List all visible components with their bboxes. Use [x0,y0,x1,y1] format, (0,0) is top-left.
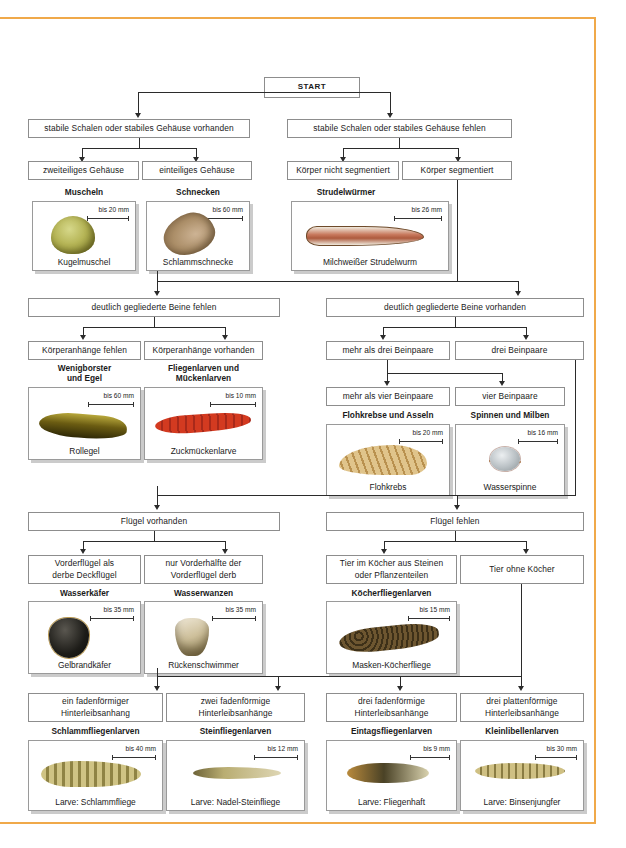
scale-rule-icon [518,439,558,444]
species-card-rollegel[interactable]: bis 60 mm Rollegel [28,387,141,460]
organism-illustration-flatworm [306,226,424,246]
arrow-to-wings-present [154,505,160,510]
caption-koecherfliegenlarven: Köcherfliegenlarven [326,588,457,598]
scale-label: bis 60 mm [213,206,243,213]
connector-l1right-bar [343,148,458,149]
connector-l4-stem [387,360,388,374]
node-animal-without-case[interactable]: Tier ohne Köcher [460,555,584,584]
node-appendages-present[interactable]: Körperanhänge vorhanden [144,341,263,360]
connector-l3right-bar [383,327,526,328]
node-wings-present[interactable]: Flügel vorhanden [28,512,280,531]
arrow-to-two-filaments [275,686,281,691]
scale-label: bis 60 mm [104,392,134,399]
caption-spinnen-milben: Spinnen und Milben [455,410,565,420]
caption-schlammfliegenlarven: Schlammfliegenlarven [28,726,163,736]
node-forewings-elytra[interactable]: Vorderflügel als derbe Deckflügel [28,555,141,584]
connector-level5-bar [157,495,576,496]
scale-rule-icon [112,755,156,760]
species-name: Larve: Schlammfliege [29,797,162,807]
connector-without-case-down [521,584,522,676]
node-two-part-case[interactable]: zweiteiliges Gehäuse [28,161,139,180]
decorative-frame-bottom [0,822,596,824]
caption-wenigborster-egel: Wenigborster und Egel [28,363,141,384]
connector-segmented-down [457,180,458,281]
arrow-to-elytra [80,549,86,554]
identification-key-flowchart: START stabile Schalen oder stabiles Gehä… [0,0,626,848]
node-forewings-half-hardened[interactable]: nur Vorderhälfte der Vorderflügel derb [144,555,263,584]
species-card-gelbrandkaefer[interactable]: bis 35 mm Gelbrandkäfer [28,601,141,674]
node-segmented-legs-absent[interactable]: deutlich gegliederte Beine fehlen [28,298,280,317]
node-shell-present[interactable]: stabile Schalen oder stabiles Gehäuse vo… [28,119,250,138]
scale-rule-icon [88,402,134,407]
arrow-to-case-absent [523,549,529,554]
species-card-schlammfliege[interactable]: bis 40 mm Larve: Schlammfliege [28,740,163,811]
species-card-wasserspinne[interactable]: bis 16 mm Wasserspinne [455,424,565,496]
organism-illustration-midge-larva [154,411,251,436]
node-three-plate-appendages[interactable]: drei plattenförmige Hinterleibsanhänge [460,693,584,722]
arrow-to-wings-absent [454,505,460,510]
species-card-rueckenschwimmer[interactable]: bis 35 mm Rückenschwimmer [144,601,263,674]
node-one-filamentous-appendage[interactable]: ein fadenförmiger Hinterleibsanhang [28,693,163,722]
connector-l4-bar [387,373,502,374]
arrow-to-more-than-three-pairs [380,335,386,340]
node-four-leg-pairs[interactable]: vier Beinpaare [455,387,565,406]
connector-start-left-down [138,92,139,115]
connector-start-right-down [390,92,391,115]
species-card-flohkrebs[interactable]: bis 20 mm Flohkrebs [326,424,450,496]
species-name: Kugelmuschel [33,257,135,267]
species-name: Masken-Köcherfliege [327,660,456,670]
scale-label: bis 40 mm [126,745,156,752]
species-card-schlammschnecke[interactable]: bis 60 mm Schlammschnecke [146,201,250,271]
species-name: Rollegel [29,446,140,456]
arrow-to-one-filament [154,686,160,691]
scale-rule-icon [408,616,450,621]
scale-rule-icon [535,755,577,760]
scale-rule-icon [90,616,134,621]
scale-rule-icon [254,755,298,760]
node-three-leg-pairs[interactable]: drei Beinpaare [455,341,584,360]
caption-wasserwanzen: Wasserwanzen [144,588,263,598]
species-card-kugelmuschel[interactable]: bis 20 mm Kugelmuschel [32,201,136,271]
organism-illustration-water-spider [490,447,520,471]
node-three-filamentous-appendages[interactable]: drei fadenförmige Hinterleibsanhänge [326,693,457,722]
organism-illustration-backswimmer [175,618,209,656]
caption-steinfliegenlarven: Steinfliegenlarven [166,726,305,736]
organism-illustration-stonefly-larva [193,767,281,779]
node-one-part-case[interactable]: einteiliges Gehäuse [142,161,252,180]
node-body-segmented[interactable]: Körper segmentiert [402,161,512,180]
scale-rule-icon [210,402,256,407]
node-more-than-three-leg-pairs[interactable]: mehr als drei Beinpaare [326,341,450,360]
species-name: Larve: Fliegenhaft [327,797,456,807]
species-card-binsenjungfer[interactable]: bis 30 mm Larve: Binsenjungfer [460,740,584,811]
connector-level3-bar [157,281,518,282]
caption-flohkrebse-asseln: Flohkrebse und Asseln [326,410,450,420]
node-more-than-four-leg-pairs[interactable]: mehr als vier Beinpaare [326,387,450,406]
node-segmented-legs-present[interactable]: deutlich gegliederte Beine vorhanden [326,298,584,317]
connector-l3left-bar [83,327,225,328]
organism-illustration-diving-beetle [49,618,89,658]
species-name: Larve: Binsenjungfer [461,797,583,807]
node-animal-in-case[interactable]: Tier im Köcher aus Steinen oder Pflanzen… [326,555,457,584]
species-card-fliegenhaft[interactable]: bis 9 mm Larve: Fliegenhaft [326,740,457,811]
species-card-nadel-steinfliege[interactable]: bis 12 mm Larve: Nadel-Steinfliege [166,740,305,811]
scale-rule-icon [87,216,129,221]
arrow-to-appendages-present [222,335,228,340]
species-card-masken-koecherfliege[interactable]: bis 15 mm Masken-Köcherfliege [326,601,457,674]
scale-label: bis 12 mm [268,745,298,752]
organism-illustration-mussel [51,216,95,254]
scale-label: bis 35 mm [104,606,134,613]
caption-schnecken: Schnecken [146,187,250,197]
node-shell-absent[interactable]: stabile Schalen oder stabiles Gehäuse fe… [287,119,512,138]
node-body-not-segmented[interactable]: Körper nicht segmentiert [287,161,399,180]
species-card-zuckmueckenlarve[interactable]: bis 10 mm Zuckmückenlarve [144,387,263,460]
node-appendages-absent[interactable]: Körperanhänge fehlen [28,341,141,360]
caption-wasserkaefer: Wasserkäfer [28,588,141,598]
decorative-frame-top [0,17,596,19]
node-two-filamentous-appendages[interactable]: zwei fadenförmige Hinterleibsanhänge [166,693,305,722]
start-node[interactable]: START [264,77,360,98]
arrow-to-three-filaments [397,686,403,691]
species-card-strudelwurm[interactable]: bis 26 mm Milchweißer Strudelwurm [291,201,449,271]
arrow-to-legs-absent [154,291,160,296]
node-wings-absent[interactable]: Flügel fehlen [326,512,584,531]
caption-eintagsfliegenlarven: Eintagsfliegenlarven [326,726,457,736]
